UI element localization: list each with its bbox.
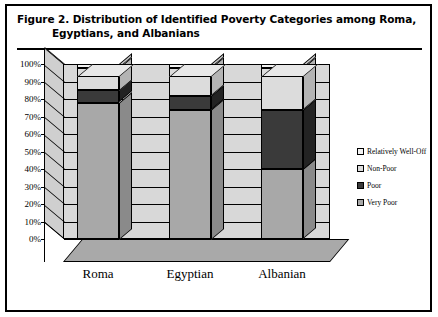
legend-swatch xyxy=(357,199,364,206)
y-axis-tick-mark xyxy=(41,204,45,205)
figure-title-line-2: Egyptians, and Albanians xyxy=(52,26,417,40)
figure-title-line-1: Figure 2. Distribution of Identified Pov… xyxy=(17,12,417,26)
legend-label: Non-Poor xyxy=(367,164,397,173)
bar-segment-side-very-poor xyxy=(303,158,316,239)
x-axis-label-roma: Roma xyxy=(53,266,143,282)
bar-segment-very-poor xyxy=(77,103,119,240)
legend-label: Relatively Well-Off xyxy=(367,147,426,156)
legend-item-relatively-well-off: Relatively Well-Off xyxy=(357,144,435,158)
y-axis-tick-mark xyxy=(41,117,45,118)
x-axis-label-egyptian: Egyptian xyxy=(145,266,235,282)
y-axis-tick-mark xyxy=(41,134,45,135)
y-axis-tick-label: 20% xyxy=(7,199,41,209)
bar-roma xyxy=(77,54,119,262)
bar-segment-very-poor xyxy=(169,110,211,240)
y-axis-tick-mark xyxy=(41,152,45,153)
y-axis-tick-label: 0% xyxy=(7,234,41,244)
y-axis-tick-mark xyxy=(41,64,45,65)
y-axis-tick-mark xyxy=(41,187,45,188)
legend-swatch xyxy=(357,148,364,155)
y-axis-line xyxy=(44,64,45,262)
bar-segment-poor xyxy=(169,96,211,110)
bar-segment-poor xyxy=(261,110,303,170)
y-axis-tick-label: 40% xyxy=(7,164,41,174)
y-axis-tick-label: 80% xyxy=(7,94,41,104)
bar-segment-side-poor xyxy=(303,99,316,169)
y-axis-tick-mark xyxy=(41,82,45,83)
legend-label: Very Poor xyxy=(367,198,397,207)
bar-egyptian xyxy=(169,54,211,262)
y-axis-tick-label: 70% xyxy=(7,112,41,122)
y-axis-tick-label: 60% xyxy=(7,129,41,139)
legend-item-very-poor: Very Poor xyxy=(357,195,435,209)
figure-title: Figure 2. Distribution of Identified Pov… xyxy=(17,12,417,40)
x-axis-label-albanian: Albanian xyxy=(237,266,327,282)
bar-albanian xyxy=(261,54,303,262)
legend-item-non-poor: Non-Poor xyxy=(357,161,435,175)
y-axis-tick-label: 30% xyxy=(7,182,41,192)
legend-item-poor: Poor xyxy=(357,178,435,192)
legend-swatch xyxy=(357,182,364,189)
bar-segment-very-poor xyxy=(261,169,303,239)
bar-segment-side-very-poor xyxy=(119,92,132,239)
y-axis-tick-label: 10% xyxy=(7,217,41,227)
y-axis-tick-label: 90% xyxy=(7,77,41,87)
title-divider xyxy=(17,48,422,50)
legend-swatch xyxy=(357,165,364,172)
y-axis-tick-mark xyxy=(41,169,45,170)
y-axis-tick-mark xyxy=(41,222,45,223)
y-axis-tick-label: 50% xyxy=(7,147,41,157)
bar-segment-side-very-poor xyxy=(211,99,224,239)
chart-legend: Relatively Well-OffNon-PoorPoorVery Poor xyxy=(357,144,435,212)
figure-frame: Figure 2. Distribution of Identified Pov… xyxy=(5,4,432,312)
y-axis-tick-label: 100% xyxy=(7,59,41,69)
y-axis-tick-mark xyxy=(41,99,45,100)
legend-label: Poor xyxy=(367,181,381,190)
bar-segment-poor xyxy=(77,90,119,102)
y-axis-tick-mark xyxy=(41,239,45,240)
